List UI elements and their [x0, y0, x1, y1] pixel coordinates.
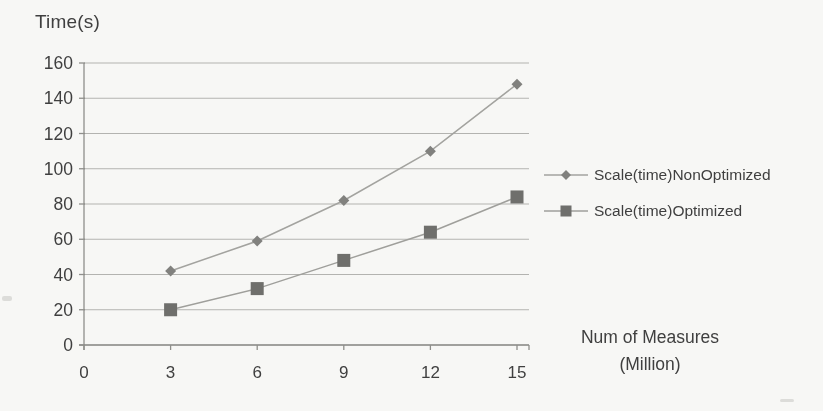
- x-tick-label: 15: [508, 363, 527, 382]
- square-data-marker: [164, 303, 177, 316]
- y-tick-label: 0: [63, 335, 73, 355]
- y-tick-label: 120: [44, 124, 73, 144]
- square-data-marker: [424, 226, 437, 239]
- y-tick-label: 40: [54, 265, 74, 285]
- square-data-marker: [251, 282, 264, 295]
- square-data-marker: [337, 254, 350, 267]
- x-tick-label: 6: [252, 363, 261, 382]
- scan-artifact: [2, 296, 12, 301]
- legend-label-optimized: Scale(time)Optimized: [594, 202, 742, 220]
- diamond-marker-icon: [544, 167, 588, 183]
- square-marker-icon: [544, 203, 588, 219]
- y-tick-label: 80: [54, 194, 74, 214]
- x-tick-label: 9: [339, 363, 348, 382]
- y-tick-label: 140: [44, 88, 73, 108]
- scan-artifact: [780, 399, 794, 402]
- x-axis-title-line1: Num of Measures: [540, 324, 760, 351]
- legend: Scale(time)NonOptimized Scale(time)Optim…: [544, 165, 771, 221]
- legend-label-nonoptimized: Scale(time)NonOptimized: [594, 166, 771, 184]
- diamond-legend-marker: [561, 170, 571, 180]
- x-axis-title-line2: (Million): [540, 351, 760, 378]
- y-tick-label: 60: [54, 229, 74, 249]
- x-tick-label: 3: [166, 363, 175, 382]
- square-data-marker: [511, 190, 524, 203]
- legend-item-optimized: Scale(time)Optimized: [544, 201, 771, 221]
- series-line-nonoptimized: [171, 84, 517, 271]
- square-legend-marker: [561, 206, 572, 217]
- x-tick-label: 12: [421, 363, 440, 382]
- diamond-data-marker: [252, 236, 263, 247]
- scanned-chart: Time(s) 02040608010012014016003691215 Sc…: [0, 0, 823, 411]
- y-tick-label: 20: [54, 300, 74, 320]
- y-tick-label: 100: [44, 159, 73, 179]
- x-tick-label: 0: [79, 363, 88, 382]
- x-axis-title: Num of Measures (Million): [540, 324, 760, 378]
- y-tick-label: 160: [44, 53, 73, 73]
- legend-item-nonoptimized: Scale(time)NonOptimized: [544, 165, 771, 185]
